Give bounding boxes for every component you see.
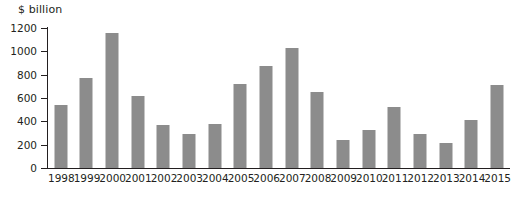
bar bbox=[157, 125, 170, 168]
bar bbox=[439, 143, 452, 168]
bar-slot bbox=[459, 28, 485, 168]
bar-slot bbox=[176, 28, 202, 168]
bar-chart: $ billion 020040060080010001200 19981999… bbox=[0, 0, 514, 207]
x-tick-label: 2000 bbox=[99, 171, 125, 185]
y-tick-label: 0 bbox=[30, 161, 37, 175]
bar-slot bbox=[382, 28, 408, 168]
y-tick-label: 1000 bbox=[10, 44, 37, 58]
y-tick-label: 400 bbox=[17, 114, 37, 128]
bar-slot bbox=[99, 28, 125, 168]
x-tick-label: 2010 bbox=[356, 171, 382, 185]
bar-slot bbox=[356, 28, 382, 168]
bar-slot bbox=[279, 28, 305, 168]
bars-layer bbox=[48, 28, 510, 168]
y-tick-label: 1200 bbox=[10, 21, 37, 35]
bar-slot bbox=[202, 28, 228, 168]
y-tick: 1000 bbox=[41, 51, 47, 52]
x-tick-label: 2006 bbox=[253, 171, 279, 185]
x-tick-label: 2008 bbox=[305, 171, 331, 185]
x-tick-label: 2012 bbox=[407, 171, 433, 185]
bar-slot bbox=[48, 28, 74, 168]
bar bbox=[465, 120, 478, 168]
y-tick-label: 800 bbox=[17, 68, 37, 82]
bar bbox=[414, 134, 427, 168]
x-tick-label: 2005 bbox=[228, 171, 254, 185]
x-tick-label: 2011 bbox=[382, 171, 408, 185]
bar-slot bbox=[151, 28, 177, 168]
bar-slot bbox=[253, 28, 279, 168]
bar bbox=[131, 96, 144, 168]
bar bbox=[311, 92, 324, 168]
bar-slot bbox=[407, 28, 433, 168]
x-tick-label: 2013 bbox=[433, 171, 459, 185]
bar-slot bbox=[484, 28, 510, 168]
x-axis-line bbox=[47, 168, 510, 169]
bar bbox=[183, 134, 196, 168]
bar bbox=[337, 140, 350, 168]
bar bbox=[260, 66, 273, 168]
x-tick-label: 1999 bbox=[74, 171, 100, 185]
y-tick: 600 bbox=[41, 98, 47, 99]
y-tick: 200 bbox=[41, 145, 47, 146]
bar-slot bbox=[330, 28, 356, 168]
x-tick-label: 2009 bbox=[330, 171, 356, 185]
bar-slot bbox=[433, 28, 459, 168]
y-tick: 1200 bbox=[41, 28, 47, 29]
bar-slot bbox=[228, 28, 254, 168]
x-tick-label: 1998 bbox=[48, 171, 74, 185]
y-tick: 0 bbox=[41, 168, 47, 169]
x-tick-label: 2014 bbox=[459, 171, 485, 185]
bar bbox=[80, 78, 93, 168]
y-tick-label: 200 bbox=[17, 138, 37, 152]
bar bbox=[285, 48, 298, 168]
y-axis-unit-caption: $ billion bbox=[18, 3, 62, 16]
x-tick-label: 2003 bbox=[176, 171, 202, 185]
bar bbox=[491, 85, 504, 168]
x-axis-labels: 1998199920002001200220032004200520062007… bbox=[48, 171, 510, 191]
bar-slot bbox=[74, 28, 100, 168]
x-tick-label: 2004 bbox=[202, 171, 228, 185]
bar-slot bbox=[125, 28, 151, 168]
x-tick-label: 2015 bbox=[484, 171, 510, 185]
x-tick-label: 2007 bbox=[279, 171, 305, 185]
bar bbox=[208, 124, 221, 168]
bar bbox=[388, 107, 401, 168]
bar bbox=[54, 105, 67, 168]
bar-slot bbox=[305, 28, 331, 168]
bar bbox=[234, 84, 247, 168]
bar bbox=[362, 130, 375, 169]
y-tick: 800 bbox=[41, 75, 47, 76]
x-tick-label: 2002 bbox=[151, 171, 177, 185]
y-tick: 400 bbox=[41, 121, 47, 122]
x-tick-label: 2001 bbox=[125, 171, 151, 185]
bar bbox=[106, 33, 119, 168]
y-tick-label: 600 bbox=[17, 91, 37, 105]
